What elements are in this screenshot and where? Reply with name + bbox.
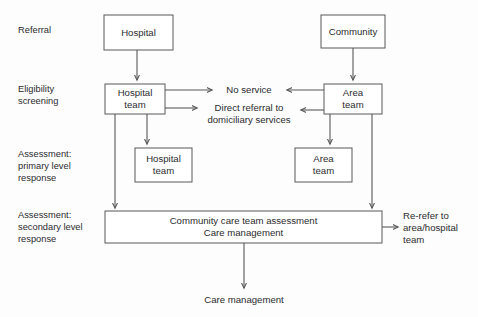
label-no-service: No service (226, 84, 271, 95)
stage-label-referral-line-0: Referral (18, 25, 51, 35)
node-area-team-screening-label-line-0: Area (343, 87, 364, 98)
node-area-team-screening-label-line-1: team (342, 99, 363, 110)
label-re-refer-line-2: team (403, 234, 424, 245)
node-hospital-team-primary-label-line-0: Hospital (146, 153, 181, 164)
stage-label-assessment-secondary-line-2: response (18, 234, 56, 244)
stage-label-assessment-primary: Assessment: primary level response (18, 149, 71, 183)
label-care-management-outcome-line-0: Care management (204, 294, 284, 305)
stage-label-assessment-secondary: Assessment: secondary level response (18, 210, 83, 244)
node-hospital-team-primary[interactable]: Hospital team (135, 148, 192, 182)
label-no-service-line-0: No service (226, 84, 271, 95)
stage-label-assessment-secondary-line-0: Assessment: (18, 210, 71, 220)
flowchart-page: Referral Eligibility screening Assessmen… (0, 0, 478, 317)
node-area-team-primary-label-line-1: team (313, 165, 334, 176)
node-area-team-primary-label-line-0: Area (313, 153, 334, 164)
node-hospital-team-screening[interactable]: Hospital team (105, 84, 165, 114)
label-direct-referral-line-0: Direct referral to (215, 102, 284, 113)
stage-label-referral: Referral (18, 25, 51, 35)
node-community[interactable]: Community (321, 15, 385, 48)
stage-label-assessment-primary-line-0: Assessment: (18, 149, 71, 159)
stage-label-assessment-secondary-line-1: secondary level (18, 222, 83, 232)
node-area-team-primary[interactable]: Area team (295, 148, 352, 182)
label-direct-referral: Direct referral to domiciliary services (207, 102, 290, 125)
node-hospital[interactable]: Hospital (104, 15, 173, 50)
stage-label-assessment-primary-line-2: response (18, 173, 56, 183)
node-area-team-screening[interactable]: Area team (324, 84, 382, 114)
node-community-care-label-line-1: Care management (204, 227, 284, 238)
stage-label-assessment-primary-line-1: primary level (18, 161, 71, 171)
node-hospital-team-screening-label-line-0: Hospital (118, 87, 153, 98)
label-re-refer-line-0: Re-refer to (403, 210, 449, 221)
label-care-management-outcome: Care management (204, 294, 284, 305)
stage-label-eligibility: Eligibility screening (18, 84, 58, 106)
stage-label-eligibility-line-0: Eligibility (18, 84, 55, 94)
node-hospital-label-line-0: Hospital (121, 27, 156, 38)
label-re-refer-line-1: area/hospital (403, 222, 458, 233)
node-community-care-label-line-0: Community care team assessment (170, 215, 318, 226)
node-hospital-team-screening-label-line-1: team (124, 99, 145, 110)
label-re-refer: Re-refer to area/hospital team (403, 210, 458, 245)
label-direct-referral-line-1: domiciliary services (207, 114, 290, 125)
flowchart-diagram: Referral Eligibility screening Assessmen… (0, 0, 478, 317)
stage-label-eligibility-line-1: screening (18, 96, 58, 106)
node-hospital-team-primary-label-line-1: team (153, 165, 174, 176)
node-community-care[interactable]: Community care team assessment Care mana… (105, 211, 382, 243)
node-community-label-line-0: Community (329, 26, 378, 37)
